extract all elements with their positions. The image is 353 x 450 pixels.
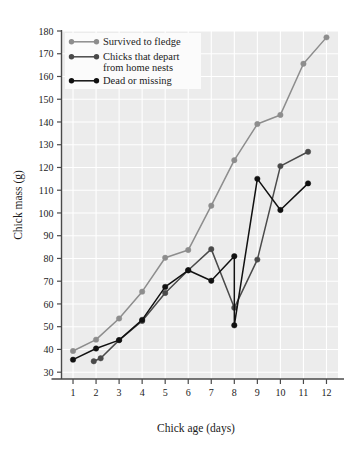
data-point [162,290,167,295]
data-point [255,257,260,262]
x-tick-label: 8 [232,387,237,398]
chart-figure: 3040506070809010011012013014015016017018… [0,0,353,450]
legend-marker [69,39,74,44]
legend-marker [94,39,99,44]
data-point [209,246,214,251]
data-point [162,284,167,289]
legend-marker [69,78,74,83]
legend-label: Chicks that depart [103,51,179,62]
chart-legend: Survived to fledgeChicks that departfrom… [65,33,201,89]
data-point [116,337,121,342]
data-point [324,35,329,40]
x-tick-label: 12 [321,387,331,398]
data-point [162,255,167,260]
legend-entry-2: from home nests [103,62,173,73]
data-point [305,149,310,154]
data-point [278,163,283,168]
data-point [186,268,191,273]
data-point [98,356,103,361]
data-point [70,357,75,362]
data-point [232,323,237,328]
y-tick-label: 70 [44,276,54,287]
y-axis-title: Chick mass (g) [12,170,25,240]
legend-marker [69,54,74,59]
x-tick-label: 3 [117,387,122,398]
data-point [186,247,191,252]
x-tick-label: 1 [71,387,76,398]
data-point [93,337,98,342]
y-tick-label: 180 [39,26,54,37]
data-point [209,203,214,208]
x-tick-label: 11 [299,387,309,398]
data-point [255,121,260,126]
data-point [232,157,237,162]
data-point [278,207,283,212]
data-point [139,289,144,294]
y-tick-label: 50 [44,321,54,332]
x-tick-label: 9 [255,387,260,398]
data-point [278,112,283,117]
data-point [70,348,75,353]
x-tick-label: 10 [275,387,285,398]
legend-label: from home nests [103,62,173,73]
legend-label: Dead or missing [103,75,173,86]
x-tick-label: 6 [186,387,191,398]
y-tick-label: 120 [39,162,54,173]
y-tick-label: 80 [44,253,54,264]
data-point [93,346,98,351]
y-tick-label: 150 [39,94,54,105]
y-tick-label: 40 [44,344,54,355]
data-point [91,359,96,364]
data-point [139,317,144,322]
x-axis-title: Chick age (days) [157,422,235,435]
legend-marker [94,54,99,59]
legend-label: Survived to fledge [103,36,181,47]
y-tick-label: 170 [39,48,54,59]
y-tick-label: 30 [44,367,54,378]
data-point [301,61,306,66]
chart-svg: 3040506070809010011012013014015016017018… [0,0,353,450]
y-tick-label: 130 [39,139,54,150]
data-point [232,253,237,258]
data-point [305,181,310,186]
y-tick-label: 140 [39,117,54,128]
x-tick-label: 5 [163,387,168,398]
data-point [116,316,121,321]
x-tick-label: 4 [140,387,145,398]
y-tick-label: 110 [39,185,54,196]
y-tick-label: 90 [44,230,54,241]
data-point [209,278,214,283]
x-tick-label: 2 [94,387,99,398]
data-point [255,176,260,181]
x-tick-label: 7 [209,387,214,398]
y-tick-label: 60 [44,299,54,310]
y-tick-label: 100 [39,208,54,219]
legend-marker [94,78,99,83]
y-tick-label: 160 [39,71,54,82]
